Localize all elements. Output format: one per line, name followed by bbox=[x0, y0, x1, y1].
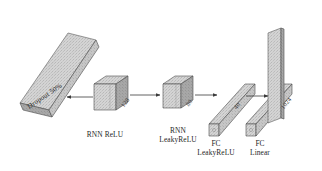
caption-rnn-relu: RNN ReLU bbox=[75, 131, 135, 140]
architecture-diagram: Dropout 50% 128 80 40 1024 RNN ReLU RNN … bbox=[0, 0, 322, 171]
caption-fc-linear-line2: Linear bbox=[232, 149, 288, 158]
